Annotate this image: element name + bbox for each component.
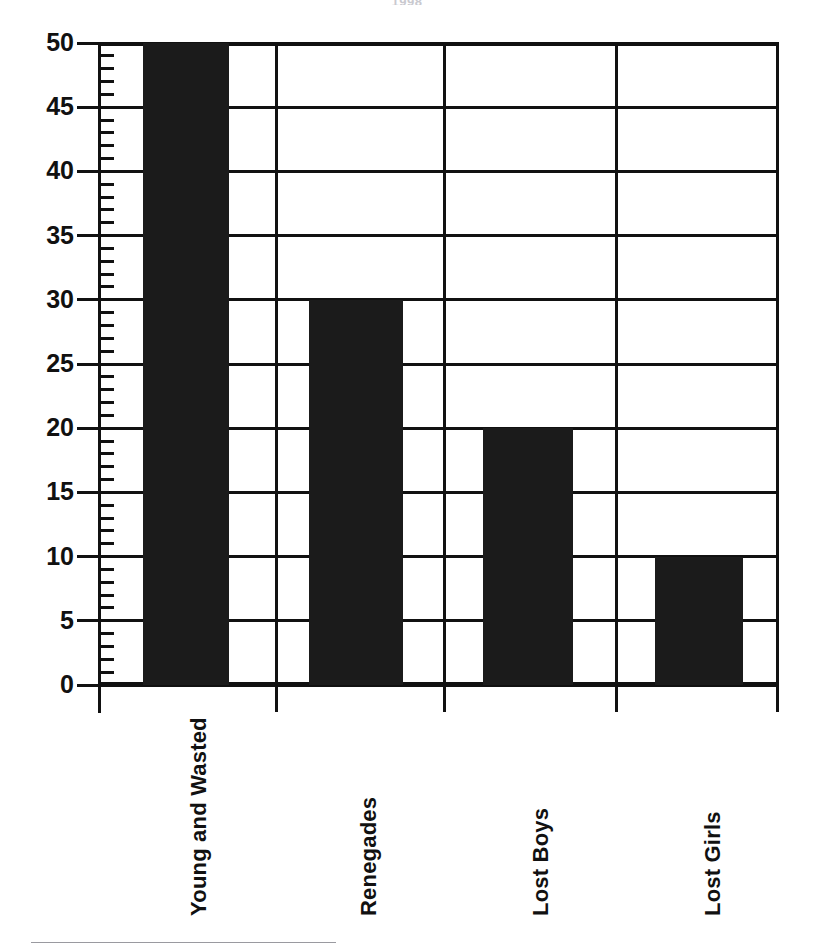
y-tick-minor-43	[101, 131, 114, 134]
y-tick-minor-1	[101, 671, 114, 674]
y-axis-labels: 05101520253035404550	[0, 0, 74, 947]
bar-2	[309, 300, 403, 685]
y-tick-label-15: 15	[0, 479, 74, 504]
y-tick-minor-34	[101, 247, 114, 250]
y-tick-major-25	[77, 363, 99, 366]
category-label-4: Lost Girls	[700, 811, 726, 916]
y-tick-label-30: 30	[0, 287, 74, 312]
y-tick-major-40	[77, 170, 99, 173]
y-tick-major-5	[77, 619, 99, 622]
y-tick-major-35	[77, 234, 99, 237]
bar-1	[143, 43, 229, 685]
chart-title: 1998	[0, 0, 814, 5]
y-tick-label-0: 0	[0, 672, 74, 697]
y-tick-label-5: 5	[0, 608, 74, 633]
y-tick-minor-11	[101, 542, 114, 545]
y-tick-minor-42	[101, 144, 114, 147]
y-tick-minor-37	[101, 208, 114, 211]
y-tick-minor-47	[101, 80, 114, 83]
y-tick-major-15	[77, 491, 99, 494]
y-tick-minor-23	[101, 388, 114, 391]
y-tick-minor-29	[101, 311, 114, 314]
category-label-2: Renegades	[356, 797, 382, 916]
y-tick-minor-39	[101, 183, 114, 186]
y-tick-label-35: 35	[0, 223, 74, 248]
y-tick-major-30	[77, 298, 99, 301]
y-tick-minor-32	[101, 273, 114, 276]
y-tick-minor-46	[101, 93, 114, 96]
category-separator-3	[615, 43, 618, 685]
y-tick-label-25: 25	[0, 351, 74, 376]
y-tick-label-40: 40	[0, 158, 74, 183]
y-tick-minor-27	[101, 337, 114, 340]
y-tick-major-20	[77, 427, 99, 430]
y-tick-minor-18	[101, 452, 114, 455]
y-tick-label-20: 20	[0, 415, 74, 440]
y-tick-minor-44	[101, 119, 114, 122]
y-tick-minor-26	[101, 350, 114, 353]
y-tick-minor-3	[101, 645, 114, 648]
y-tick-minor-28	[101, 324, 114, 327]
y-tick-major-45	[77, 106, 99, 109]
footer-rule	[31, 942, 336, 943]
y-tick-minor-33	[101, 260, 114, 263]
y-tick-minor-31	[101, 285, 114, 288]
category-label-3: Lost Boys	[528, 808, 554, 916]
y-tick-minor-2	[101, 658, 114, 661]
y-tick-minor-36	[101, 221, 114, 224]
y-tick-minor-4	[101, 632, 114, 635]
y-tick-minor-22	[101, 401, 114, 404]
y-tick-label-45: 45	[0, 94, 74, 119]
x-axis-tick-2	[443, 685, 446, 712]
category-separator-2	[443, 43, 446, 685]
y-tick-minor-13	[101, 517, 114, 520]
y-tick-minor-16	[101, 478, 114, 481]
y-tick-minor-6	[101, 606, 114, 609]
y-tick-minor-8	[101, 581, 114, 584]
y-tick-minor-17	[101, 465, 114, 468]
category-separator-1	[275, 43, 278, 685]
x-axis-tick-1	[275, 685, 278, 712]
y-tick-minor-14	[101, 504, 114, 507]
y-tick-minor-38	[101, 196, 114, 199]
y-tick-minor-12	[101, 529, 114, 532]
x-axis-tick-4	[776, 685, 779, 712]
y-tick-major-10	[77, 555, 99, 558]
y-tick-minor-41	[101, 157, 114, 160]
y-tick-minor-9	[101, 568, 114, 571]
bar-4	[655, 557, 743, 685]
x-axis-tick-3	[615, 685, 618, 712]
y-tick-minor-21	[101, 414, 114, 417]
bar-3	[483, 428, 573, 685]
plot-area	[98, 43, 779, 685]
category-label-1: Young and Wasted	[186, 717, 212, 916]
y-tick-label-10: 10	[0, 544, 74, 569]
y-tick-major-50	[77, 42, 99, 45]
y-tick-minor-24	[101, 375, 114, 378]
y-tick-minor-49	[101, 54, 114, 57]
y-tick-major-0	[77, 684, 99, 687]
y-tick-minor-7	[101, 594, 114, 597]
y-tick-label-50: 50	[0, 30, 74, 55]
y-tick-minor-19	[101, 440, 114, 443]
y-tick-minor-48	[101, 67, 114, 70]
